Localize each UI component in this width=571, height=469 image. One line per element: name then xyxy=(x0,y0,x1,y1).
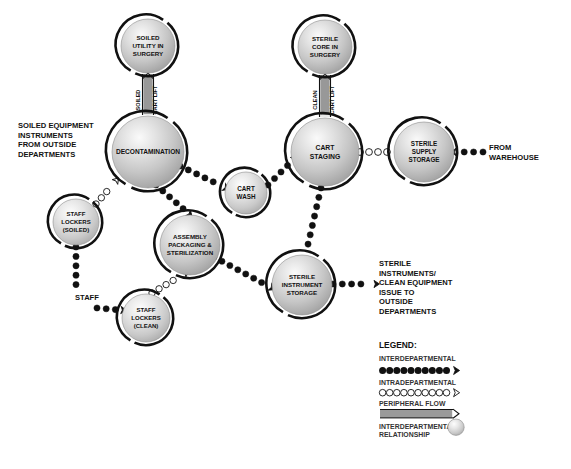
connector-staff-to-staff-lockers-clean xyxy=(94,305,127,314)
legend-arrowhead xyxy=(454,389,460,397)
node-sphere xyxy=(394,122,454,182)
legend-dot xyxy=(386,367,393,374)
cart-lift-layer: SOILEDCART LIFTCLEANCART LIFT xyxy=(135,85,335,114)
node-sphere xyxy=(53,199,99,245)
node-assembly-packaging-sterilization[interactable]: ASSEMBLYPACKAGING &STERILIZATION xyxy=(154,210,223,278)
legend-dot xyxy=(436,367,443,374)
legend-item-intradepartmental: INTRADEPARTMENTAL xyxy=(379,379,460,397)
legend-dot xyxy=(379,389,386,396)
node-cart-wash[interactable]: CARTWASH xyxy=(220,168,270,218)
node-sphere xyxy=(121,19,175,73)
legend-item-peripheral-flow: PERIPHERAL FLOW xyxy=(379,400,459,418)
legend-dot xyxy=(415,367,422,374)
connector-cart-staging-to-sterile-instrument-storage xyxy=(305,185,324,247)
connector-staff-lockers-soiled-to-decontamination xyxy=(93,176,121,208)
external-label-from-warehouse: FROMWAREHOUSE xyxy=(489,143,539,162)
legend-sphere xyxy=(448,419,464,435)
legend-item-label: INTRADEPARTMENTAL xyxy=(379,379,456,386)
legend-dot xyxy=(415,389,422,396)
node-sterile-supply-storage[interactable]: STERILESUPPLYSTORAGE xyxy=(388,117,457,185)
legend-dot xyxy=(393,367,400,374)
legend-dot xyxy=(443,389,450,396)
lift-label-left: SOILED xyxy=(135,90,141,111)
legend-dot xyxy=(401,389,408,396)
external-label-soiled-equipment-source: SOILED EQUIPMENTINSTRUMENTSFROM OUTSIDED… xyxy=(18,121,94,159)
legend-dot xyxy=(408,389,415,396)
legend-dot xyxy=(429,389,436,396)
node-sterile-instrument-storage[interactable]: STERILEINSTRUMENTSTORAGE xyxy=(266,250,335,318)
legend-dot xyxy=(394,389,401,396)
legend-dot xyxy=(408,367,415,374)
node-cart-staging[interactable]: CARTSTAGING xyxy=(285,113,362,189)
legend-arrowhead xyxy=(454,367,460,375)
legend-item-interdepartmental: INTERDEPARTMENTAL xyxy=(379,355,460,375)
legend-item-interdepartmental-relationship: INTERDEPARTMENTALRELATIONSHIP xyxy=(379,419,464,438)
connector-sterile-instrument-storage-to-outside xyxy=(330,280,380,287)
legend-title: LEGEND: xyxy=(379,340,417,350)
node-sphere xyxy=(298,20,352,74)
node-sphere xyxy=(272,255,332,315)
lift-label-right: CART LIFT xyxy=(329,85,335,114)
legend-item-label: INTERDEPARTMENTALRELATIONSHIP xyxy=(379,423,456,438)
legend-arrowhead xyxy=(453,409,459,418)
flow-diagram: SOILEDCART LIFTCLEANCART LIFT SOILEDUTIL… xyxy=(0,0,571,469)
legend-layer: LEGEND:INTERDEPARTMENTALINTRADEPARTMENTA… xyxy=(379,340,464,438)
external-label-staff-entry: STAFF xyxy=(75,293,99,302)
node-sphere xyxy=(112,116,184,188)
node-decontamination[interactable]: DECONTAMINATION xyxy=(106,111,187,191)
node-soiled-utility-in-surgery[interactable]: SOILEDUTILITY INSURGERY xyxy=(116,14,179,76)
legend-dot xyxy=(400,367,407,374)
legend-dot xyxy=(386,389,393,396)
node-sphere xyxy=(291,118,359,186)
legend-dot xyxy=(379,367,386,374)
node-staff-lockers-soiled[interactable]: STAFFLOCKERS(SOILED) xyxy=(48,195,102,249)
node-sterile-core-in-surgery[interactable]: STERILECORE INSURGERY xyxy=(293,15,356,77)
legend-item-label: PERIPHERAL FLOW xyxy=(379,400,446,407)
connector-staff-lockers-soiled-down xyxy=(73,244,79,288)
lift-label-left: CLEAN xyxy=(312,90,318,109)
lift-label-right: CART LIFT xyxy=(152,85,158,114)
legend-dot xyxy=(422,389,429,396)
external-label-sterile-issue-destination: STERILEINSTRUMENTS/CLEAN EQUIPMENTISSUE … xyxy=(379,259,453,316)
legend-dot xyxy=(443,367,450,374)
node-sphere xyxy=(122,294,170,342)
legend-dot xyxy=(422,367,429,374)
legend-item-label: INTERDEPARTMENTAL xyxy=(379,355,456,362)
legend-dot xyxy=(429,367,436,374)
node-sphere xyxy=(160,215,220,275)
node-sphere xyxy=(225,172,267,214)
node-staff-lockers-clean[interactable]: STAFFLOCKERS(CLEAN) xyxy=(117,290,173,346)
legend-dot xyxy=(436,389,443,396)
